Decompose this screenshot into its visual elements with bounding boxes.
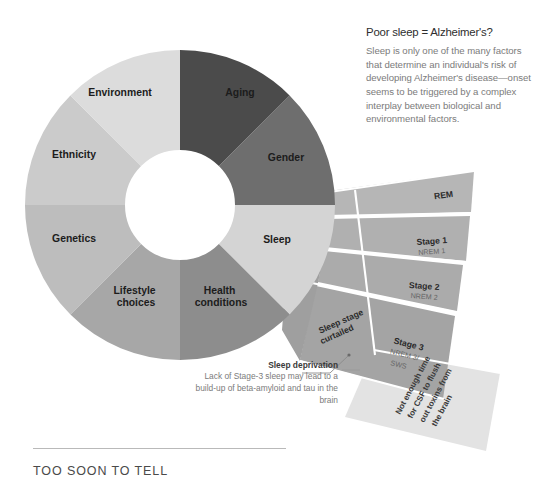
donut-ring	[25, 50, 335, 360]
donut-label-sleep: Sleep	[263, 234, 291, 245]
bottom-divider	[33, 448, 286, 449]
donut-label-ethnicity: Ethnicity	[52, 149, 96, 160]
sleep-deprivation-annotation: Sleep deprivation Lack of Stage-3 sleep …	[186, 360, 338, 407]
donut-label-environment: Environment	[88, 87, 152, 98]
sleep-deprivation-title: Sleep deprivation	[186, 360, 338, 371]
infographic-root: Aging Gender Sleep Health conditions Lif…	[0, 0, 540, 479]
sleep-stage-sub-stage-1: NREM 1	[418, 246, 446, 257]
side-panel-title: Poor sleep = Alzheimer's?	[366, 26, 534, 39]
bottom-caption: TOO SOON TO TELL	[33, 464, 168, 478]
donut-label-lifestyle-choices: Lifestyle choices	[113, 285, 158, 308]
donut-label-gender: Gender	[268, 152, 304, 163]
sleep-deprivation-body: Lack of Stage-3 sleep may lead to a buil…	[186, 371, 338, 406]
sleep-stage-sub-stage-2: NREM 2	[410, 291, 438, 302]
side-panel: Poor sleep = Alzheimer's? Sleep is only …	[366, 26, 534, 126]
donut-label-genetics: Genetics	[52, 233, 96, 244]
side-panel-body: Sleep is only one of the many factors th…	[366, 44, 534, 126]
donut-label-aging: Aging	[225, 87, 254, 98]
